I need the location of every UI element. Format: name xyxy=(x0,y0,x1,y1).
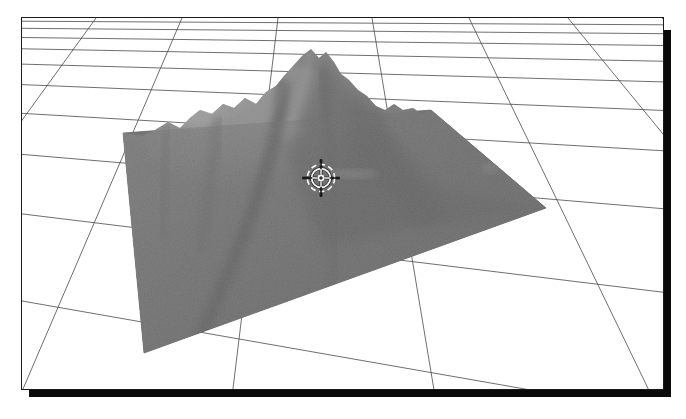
screenshot-root xyxy=(0,0,686,419)
terrain-dither-overlay xyxy=(117,103,557,363)
window-drop-shadow-bottom xyxy=(29,389,671,397)
terrain-3d-viewport[interactable] xyxy=(21,17,664,390)
window-drop-shadow-right xyxy=(663,30,671,397)
3d-scene xyxy=(22,18,663,389)
